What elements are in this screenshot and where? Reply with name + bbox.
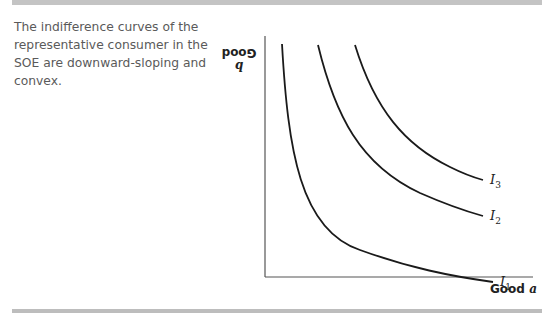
x-axis-label: Good a bbox=[490, 282, 537, 296]
label-i1: I1 bbox=[500, 274, 511, 292]
indifference-chart bbox=[0, 0, 554, 326]
label-i2: I2 bbox=[490, 208, 501, 226]
curve-i1 bbox=[282, 44, 493, 282]
curve-i3 bbox=[355, 45, 483, 180]
y-axis-label: Good b bbox=[232, 38, 252, 88]
label-i3: I3 bbox=[490, 172, 501, 190]
bottom-rule bbox=[12, 309, 542, 313]
